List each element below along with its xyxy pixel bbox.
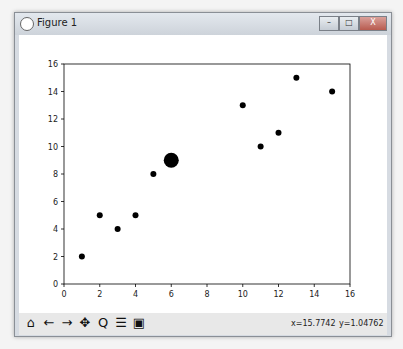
pan-icon[interactable]: ✥ xyxy=(77,315,93,331)
scatter-plot: 02468101214160246810121416 xyxy=(19,35,387,313)
y-tick-label: 10 xyxy=(48,143,58,152)
zoom-icon[interactable]: Q xyxy=(95,315,111,331)
app-icon xyxy=(20,17,34,31)
figure-canvas[interactable]: 02468101214160246810121416 xyxy=(19,35,387,325)
figure-window: Figure 1 – □ X 0246810121416024681012141… xyxy=(14,12,392,337)
configure-subplots-icon[interactable]: ☰ xyxy=(113,315,129,331)
forward-icon[interactable]: → xyxy=(59,315,75,331)
x-tick-label: 6 xyxy=(169,290,174,299)
x-tick-label: 2 xyxy=(97,290,102,299)
data-point xyxy=(115,226,121,232)
data-point xyxy=(276,130,282,136)
y-tick-label: 8 xyxy=(53,170,58,179)
y-tick-label: 6 xyxy=(53,198,58,207)
close-button[interactable]: X xyxy=(359,16,387,31)
title-bar[interactable]: Figure 1 – □ X xyxy=(15,13,391,35)
x-tick-label: 4 xyxy=(133,290,138,299)
data-point xyxy=(97,212,103,218)
data-point xyxy=(164,153,179,168)
y-tick-label: 2 xyxy=(53,253,58,262)
y-coordinate: y=1.04762 xyxy=(339,319,384,328)
x-tick-label: 14 xyxy=(309,290,319,299)
x-tick-label: 12 xyxy=(273,290,283,299)
x-tick-label: 0 xyxy=(61,290,66,299)
data-point xyxy=(79,254,85,260)
data-point xyxy=(240,102,246,108)
back-icon[interactable]: ← xyxy=(41,315,57,331)
home-icon[interactable]: ⌂ xyxy=(23,315,39,331)
x-tick-label: 10 xyxy=(238,290,248,299)
y-tick-label: 14 xyxy=(48,88,58,97)
y-tick-label: 4 xyxy=(53,225,58,234)
axes-frame xyxy=(64,64,350,284)
data-point xyxy=(258,144,264,150)
y-tick-label: 12 xyxy=(48,115,58,124)
y-tick-label: 0 xyxy=(53,280,58,289)
data-point xyxy=(329,89,335,95)
y-tick-label: 16 xyxy=(48,60,58,69)
minimize-button[interactable]: – xyxy=(319,16,339,31)
x-coordinate: x=15.7742 xyxy=(291,319,336,328)
maximize-button[interactable]: □ xyxy=(339,16,359,31)
x-tick-label: 8 xyxy=(204,290,209,299)
x-tick-label: 16 xyxy=(345,290,355,299)
save-icon[interactable]: ▣ xyxy=(131,315,147,331)
navigation-toolbar: ⌂ ← → ✥ Q ☰ ▣ x=15.7742 y=1.04762 xyxy=(19,313,387,335)
data-point xyxy=(293,75,299,81)
data-point xyxy=(150,171,156,177)
window-title: Figure 1 xyxy=(37,17,77,28)
data-point xyxy=(133,212,139,218)
